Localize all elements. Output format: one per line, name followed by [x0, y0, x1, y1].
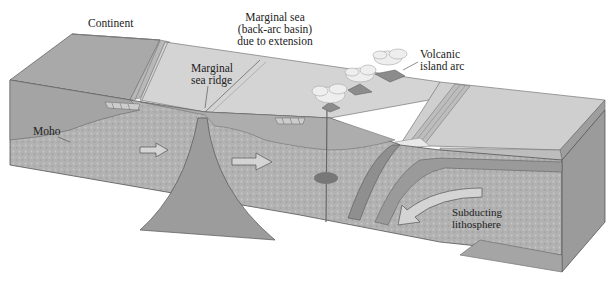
- arc-leader-line: [403, 62, 418, 70]
- label-ridge-line2: sea ridge: [191, 74, 233, 86]
- label-marginal-sea-line1: Marginal sea: [230, 11, 320, 23]
- sediment-wedge-right: [275, 118, 305, 124]
- label-marginal-sea-ridge: Marginal sea ridge: [191, 62, 233, 86]
- label-subducting-lithosphere: Subducting lithosphere: [452, 206, 502, 230]
- eruption-cloud-1: [373, 49, 407, 65]
- label-continent: Continent: [88, 17, 133, 29]
- label-ridge-line1: Marginal: [191, 62, 233, 74]
- label-volcanic-arc-line1: Volcanic: [420, 48, 464, 60]
- magma-chamber: [314, 172, 338, 184]
- label-marginal-sea-line3: due to extension: [230, 35, 320, 47]
- label-subducting-line2: lithosphere: [452, 218, 502, 230]
- label-subducting-line1: Subducting: [452, 206, 502, 218]
- label-volcanic-arc: Volcanic island arc: [420, 48, 464, 72]
- label-marginal-sea-line2: (back-arc basin): [230, 23, 320, 35]
- label-volcanic-arc-line2: island arc: [420, 60, 464, 72]
- label-marginal-sea: Marginal sea (back-arc basin) due to ext…: [230, 11, 320, 47]
- label-moho: Moho: [33, 125, 60, 137]
